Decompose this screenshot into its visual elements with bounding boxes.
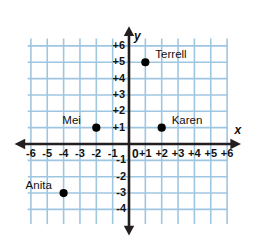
point-marker-terrell xyxy=(141,58,149,66)
point-label-karen: Karen xyxy=(172,115,203,127)
x-tick-label-+5: +5 xyxy=(204,148,217,159)
axes xyxy=(15,26,241,235)
y-tick-label-+2: +2 xyxy=(112,105,125,116)
coordinate-grid-svg xyxy=(0,0,256,240)
x-axis-letter: x xyxy=(234,124,241,136)
y-tick-label-+6: +6 xyxy=(112,40,125,51)
point-label-terrell: Terrell xyxy=(155,49,186,61)
x-tick-label-+4: +4 xyxy=(188,148,201,159)
y-tick-label-+1: +1 xyxy=(112,122,125,133)
x-tick-label-+6: +6 xyxy=(221,148,234,159)
coordinate-plane-figure: TerrellKarenMeiAnita-6-5-4-3-2-1+1+2+3+4… xyxy=(0,0,256,240)
y-tick-label--4: -4 xyxy=(116,203,126,214)
y-tick-label-+4: +4 xyxy=(112,73,125,84)
y-tick-label--3: -3 xyxy=(116,187,126,198)
x-tick-label-+3: +3 xyxy=(172,148,185,159)
point-marker-mei xyxy=(92,124,100,132)
y-tick-label-+3: +3 xyxy=(112,89,125,100)
origin-label: 0 xyxy=(132,148,139,160)
point-label-mei: Mei xyxy=(62,115,81,127)
x-tick-label--6: -6 xyxy=(26,148,36,159)
x-tick-label--3: -3 xyxy=(75,148,85,159)
x-tick-label--2: -2 xyxy=(91,148,101,159)
x-tick-label--5: -5 xyxy=(42,148,52,159)
x-tick-label-+1: +1 xyxy=(139,148,152,159)
x-tick-label-+2: +2 xyxy=(155,148,168,159)
point-label-anita: Anita xyxy=(26,180,52,192)
y-tick-label-+5: +5 xyxy=(112,56,125,67)
y-tick-label--1: -1 xyxy=(116,154,126,165)
point-marker-anita xyxy=(60,189,68,197)
y-tick-label--2: -2 xyxy=(116,171,126,182)
point-marker-karen xyxy=(158,124,166,132)
y-axis-letter: y xyxy=(134,30,141,42)
x-tick-label--4: -4 xyxy=(59,148,69,159)
